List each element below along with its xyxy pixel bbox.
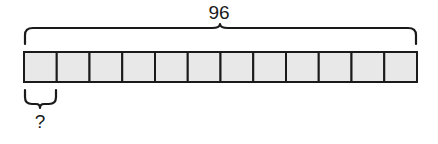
total-label: 96 bbox=[208, 2, 229, 23]
total-brace bbox=[25, 24, 416, 44]
tape-bar bbox=[24, 52, 417, 82]
tape-cell bbox=[24, 52, 57, 82]
part-brace bbox=[25, 90, 56, 108]
tape-cell bbox=[319, 52, 352, 82]
tape-cell bbox=[253, 52, 286, 82]
unknown-part-label: ? bbox=[35, 111, 46, 132]
tape-cell bbox=[286, 52, 319, 82]
tape-diagram-canvas: 96 ? bbox=[0, 0, 438, 144]
tape-cell bbox=[188, 52, 221, 82]
tape-cell bbox=[221, 52, 254, 82]
tape-cell bbox=[57, 52, 90, 82]
tape-cell bbox=[384, 52, 417, 82]
tape-cell bbox=[352, 52, 385, 82]
tape-cell bbox=[122, 52, 155, 82]
tape-cell bbox=[90, 52, 123, 82]
tape-cell bbox=[155, 52, 188, 82]
tape-diagram: 96 ? bbox=[0, 0, 438, 144]
